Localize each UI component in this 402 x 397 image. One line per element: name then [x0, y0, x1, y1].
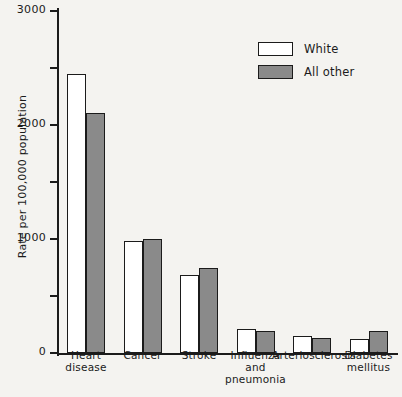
bar-white — [180, 275, 199, 353]
bar-all-other — [199, 268, 218, 353]
y-axis-label: Rate per 100,000 population — [16, 77, 29, 277]
y-tick-minor — [50, 295, 57, 297]
legend: White All other — [258, 42, 354, 88]
x-category-label: Diabetes mellitus — [329, 349, 402, 373]
legend-label-all-other: All other — [304, 65, 354, 79]
bar-all-other — [86, 113, 105, 353]
y-tick-major — [50, 124, 57, 126]
bar-group — [180, 11, 218, 353]
bar-group — [350, 11, 388, 353]
bar-group — [67, 11, 105, 353]
legend-item-white: White — [258, 42, 354, 56]
legend-item-all-other: All other — [258, 65, 354, 79]
bar-white — [124, 241, 143, 353]
bar-group — [124, 11, 162, 353]
legend-label-white: White — [304, 42, 338, 56]
legend-swatch-all-other — [258, 65, 293, 79]
legend-swatch-white — [258, 42, 293, 56]
bar-chart: 0100020003000 Rate per 100,000 populatio… — [0, 0, 402, 397]
y-tick-minor — [50, 181, 57, 183]
bar-all-other — [143, 239, 162, 353]
y-tick-major — [50, 10, 57, 12]
bar-white — [67, 74, 86, 353]
y-tick-minor — [50, 67, 57, 69]
y-tick-major — [50, 238, 57, 240]
y-tick-label: 3000 — [17, 3, 46, 16]
y-tick-label: 0 — [39, 345, 46, 358]
